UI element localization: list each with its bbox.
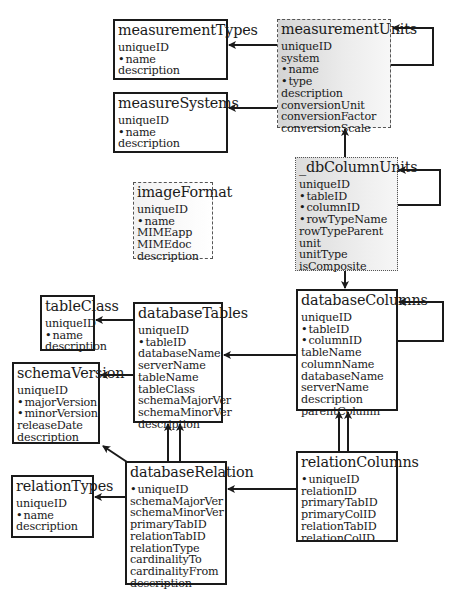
field-uniqueid: uniqueID	[17, 385, 95, 397]
field-uniqueid: uniqueID	[16, 498, 89, 510]
field-relationtabid: relationTabID	[301, 521, 393, 533]
field-schemaminorver: schemaMinorVer	[138, 407, 218, 419]
field-parentcolumn: parentColumn	[301, 406, 393, 418]
field-tablename: tableName	[138, 372, 218, 384]
entity-measurement-units: measurementUnits uniqueID system name ty…	[277, 19, 391, 128]
field-description: description	[137, 251, 209, 263]
entity-measurement-types: measurementTypes uniqueID name descripti…	[113, 19, 228, 80]
field-relationtabid: relationTabID	[130, 531, 222, 543]
entity-title: _dbColumnUnits	[299, 159, 394, 176]
field-description: description	[16, 521, 89, 533]
entity-title: relationTypes	[16, 478, 89, 495]
field-description: description	[138, 419, 218, 431]
entity-title: databaseTables	[138, 305, 218, 322]
entity-title: relationColumns	[301, 454, 393, 471]
entity-image-format: imageFormat uniqueID name MIMEapp MIMEdo…	[133, 182, 213, 259]
field-uniqueid: uniqueID	[299, 179, 394, 191]
field-description: description	[118, 138, 223, 150]
field-cardinalityfrom: cardinalityFrom	[130, 566, 222, 578]
entity-title: imageFormat	[137, 184, 209, 201]
entity-database-columns: databaseColumns uniqueID tableID columnI…	[296, 289, 398, 411]
entity-db-column-units: _dbColumnUnits uniqueID tableID columnID…	[295, 157, 398, 271]
entity-table-class: tableClass uniqueID name description	[40, 295, 95, 351]
entity-database-relation: databaseRelation uniqueID schemaMajorVer…	[125, 461, 227, 585]
entity-title: measurementUnits	[281, 21, 387, 38]
entity-title: tableClass	[45, 298, 90, 315]
entity-title: measureSystems	[118, 95, 223, 112]
field-iscomposite: isComposite	[299, 261, 394, 273]
entity-title: databaseColumns	[301, 292, 393, 309]
link-colunits-self	[397, 170, 440, 205]
entity-relation-types: relationTypes uniqueID name description	[11, 475, 94, 538]
entity-title: schemaVersion	[17, 365, 95, 382]
entity-database-tables: databaseTables uniqueID tableID database…	[133, 302, 223, 423]
field-uniqueid: uniqueID	[301, 312, 393, 324]
field-uniqueid: uniqueID	[118, 42, 223, 54]
field-description: description	[17, 432, 95, 444]
entity-title: measurementTypes	[118, 22, 223, 39]
entity-schema-version: schemaVersion uniqueID majorVersion mino…	[12, 362, 100, 444]
field-uniqueid: uniqueID	[281, 41, 387, 53]
entity-title: databaseRelation	[130, 464, 222, 481]
field-uniqueid: uniqueID	[118, 115, 223, 127]
field-relationcolid: relationColID	[301, 533, 393, 545]
field-conversion-scale: conversionScale	[281, 123, 387, 135]
field-uniqueid: uniqueID	[130, 484, 222, 496]
field-description: description	[301, 394, 393, 406]
field-description: description	[281, 88, 387, 100]
field-columnname: columnName	[301, 359, 393, 371]
field-uniqueid: uniqueID	[45, 318, 90, 330]
field-description: description	[130, 578, 222, 590]
link-relation-to-schemaversion	[103, 446, 127, 462]
entity-measure-systems: measureSystems uniqueID name description	[113, 92, 228, 153]
field-description: description	[118, 65, 223, 77]
field-description: description	[45, 341, 90, 353]
field-rowtypeparent: rowTypeParent	[299, 226, 394, 238]
entity-relation-columns: relationColumns uniqueID relationID prim…	[296, 451, 398, 542]
field-uniqueid: uniqueID	[301, 474, 393, 486]
field-uniqueid: uniqueID	[138, 325, 218, 337]
field-uniqueid: uniqueID	[137, 204, 209, 216]
